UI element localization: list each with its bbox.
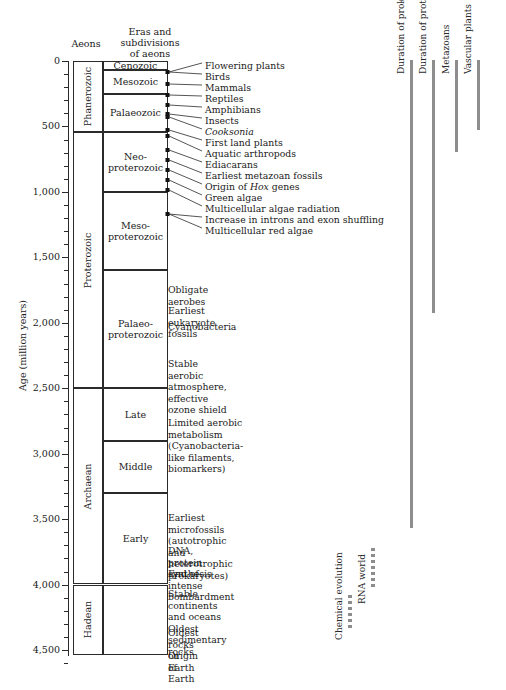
duration-bar-label: Vascular plants	[463, 4, 473, 74]
dotted-bar-segment	[348, 595, 352, 598]
event-marker-dot	[166, 115, 170, 119]
dotted-bar-segment	[371, 578, 375, 581]
event-label: Multicellular algae radiation	[205, 203, 340, 214]
event-label: Origin of Earth	[168, 650, 198, 685]
event-marker-dot	[166, 188, 170, 192]
event-label: Mammals	[205, 82, 251, 93]
event-leader-line	[169, 114, 202, 118]
event-label: Green algae	[205, 192, 262, 203]
event-leader-line	[169, 95, 202, 96]
dotted-bar-segment	[371, 584, 375, 587]
event-label: Cyanobacteria	[168, 321, 236, 333]
duration-bar	[477, 60, 480, 130]
dotted-bar-segment	[348, 625, 352, 628]
event-label: Aquatic arthropods	[205, 148, 296, 159]
event-leader-line	[169, 84, 202, 85]
dotted-bar-segment	[348, 619, 352, 622]
dotted-duration-bar	[348, 595, 352, 631]
dotted-bar-label: Chemical evolution	[334, 552, 344, 640]
duration-bar-label: Duration of prokaryotes	[396, 0, 406, 74]
dotted-bar-segment	[371, 554, 375, 557]
dotted-bar-segment	[371, 560, 375, 563]
event-leader-line	[169, 214, 202, 228]
dotted-bar-segment	[348, 601, 352, 604]
event-leader-line	[169, 63, 202, 72]
duration-bar	[432, 60, 435, 313]
event-label: Ediacarans	[205, 159, 258, 170]
dotted-duration-bar	[371, 548, 375, 590]
duration-bar	[410, 60, 413, 528]
event-label: Multicellular red algae	[205, 225, 313, 236]
event-leader-line	[169, 105, 202, 107]
event-leader-line	[169, 160, 202, 173]
event-leader-line	[169, 117, 202, 129]
event-label: Increase in introns and exon shuffling	[205, 214, 384, 225]
event-label: Insects	[205, 115, 239, 126]
duration-bar-label: Metazoans	[441, 25, 451, 74]
event-marker-dot	[166, 103, 170, 107]
event-marker-dot	[166, 82, 170, 86]
dotted-bar-segment	[371, 572, 375, 575]
event-label: Amphibians	[205, 104, 261, 115]
event-marker-dot	[166, 70, 170, 74]
event-leader-line	[169, 214, 202, 217]
event-marker-dot	[166, 93, 170, 97]
dotted-bar-segment	[348, 613, 352, 616]
event-leader-line	[169, 72, 202, 74]
event-marker-dot	[166, 148, 170, 152]
event-label: Cooksonia	[205, 126, 254, 137]
duration-bar	[455, 60, 458, 152]
geological-timeline-figure: Aeons Eras and subdivisions of aeons 050…	[0, 0, 506, 690]
event-label: Earliest metazoan fossils	[205, 170, 323, 181]
event-marker-dot	[166, 178, 170, 182]
event-label: Obligate aerobes	[168, 284, 208, 307]
event-label: Flowering plants	[205, 60, 285, 71]
event-leader-line	[169, 150, 202, 162]
event-label: Reptiles	[205, 93, 243, 104]
dotted-bar-segment	[371, 566, 375, 569]
event-label: First land plants	[205, 137, 283, 148]
event-marker-dot	[166, 134, 170, 138]
event-marker-dot	[166, 128, 170, 132]
event-label: Limited aerobic metabolism (Cyanobacteri…	[168, 417, 243, 475]
event-marker-dot	[166, 168, 170, 172]
duration-bar-label: Duration of protists	[418, 0, 428, 74]
dotted-bar-label: RNA world	[357, 554, 367, 604]
event-marker-dot	[166, 212, 170, 216]
event-label: Origin of Hox genes	[205, 181, 300, 192]
dotted-bar-segment	[348, 607, 352, 610]
event-label: Stable aerobic atmosphere, effective ozo…	[168, 358, 227, 416]
dotted-bar-segment	[371, 548, 375, 551]
event-marker-dot	[166, 158, 170, 162]
event-label: Birds	[205, 71, 230, 82]
